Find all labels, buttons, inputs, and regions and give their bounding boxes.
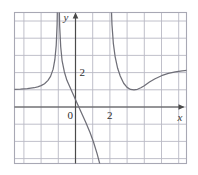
function-graph-plot [0, 0, 198, 175]
x-axis-label: x [178, 112, 183, 123]
grid-lines [15, 13, 187, 164]
origin-label: 0 [68, 110, 74, 121]
graph-figure: y x 0 2 2 [0, 0, 198, 175]
x-tick-label-2: 2 [107, 110, 113, 121]
y-tick-label-2: 2 [80, 67, 86, 78]
axis-lines [15, 13, 185, 164]
y-axis-label: y [64, 12, 69, 23]
plot-border [15, 13, 187, 164]
